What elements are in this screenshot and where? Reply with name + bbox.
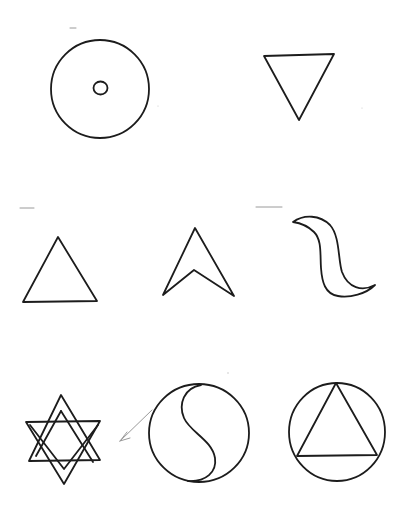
upward-triangle-icon: [23, 237, 97, 302]
wave-crescent-icon: [293, 217, 375, 297]
speck: [157, 105, 158, 106]
arrowhead-icon: [163, 228, 234, 296]
symbol-sheet: [0, 0, 414, 519]
inverted-triangle-icon: [264, 54, 334, 120]
speck: [227, 372, 229, 374]
pencil-arrow-icon: [120, 410, 152, 441]
circle-with-dot-icon: [51, 40, 149, 138]
hexagram-star-icon: [26, 395, 100, 484]
yin-yang-circle-icon: [149, 384, 249, 482]
speck: [361, 107, 362, 108]
circle-with-triangle-icon: [289, 383, 385, 481]
